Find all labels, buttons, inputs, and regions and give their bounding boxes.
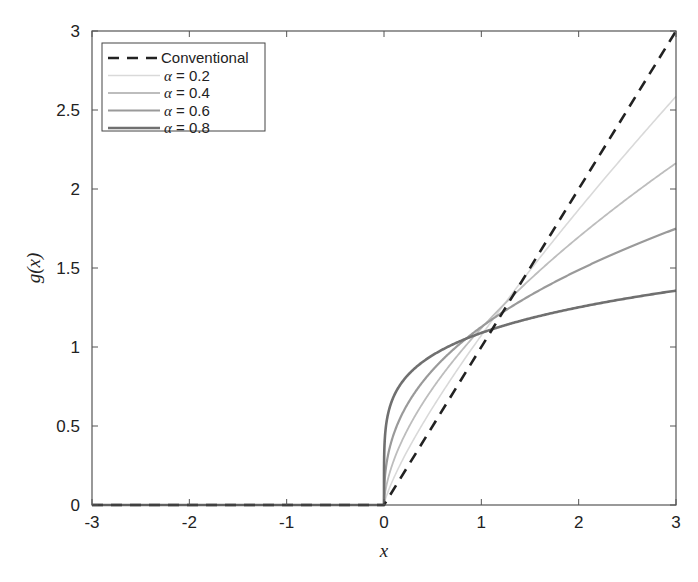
y-axis-label: g(x) xyxy=(23,253,45,284)
x-tick-label: -3 xyxy=(84,513,99,532)
y-tick-label: 3 xyxy=(71,22,80,41)
y-tick-label: 0.5 xyxy=(56,417,80,436)
y-tick-label: 1 xyxy=(71,338,80,357)
legend-label: α = 0.4 xyxy=(164,84,210,101)
x-tick-label: 2 xyxy=(574,513,583,532)
x-tick-label: 0 xyxy=(379,513,388,532)
y-tick-label: 0 xyxy=(71,496,80,515)
x-tick-label: 3 xyxy=(671,513,680,532)
legend: Conventionalα = 0.2α = 0.4α = 0.6α = 0.8 xyxy=(102,43,265,136)
y-tick-label: 2.5 xyxy=(56,101,80,120)
y-tick-labels: 00.511.522.53 xyxy=(56,22,80,515)
x-tick-label: -2 xyxy=(182,513,197,532)
legend-label: Conventional xyxy=(161,49,249,66)
x-tick-label: -1 xyxy=(279,513,294,532)
chart: -3-2-10123 00.511.522.53 x g(x) Conventi… xyxy=(0,0,698,582)
series-line xyxy=(92,291,676,505)
x-tick-labels: -3-2-10123 xyxy=(84,513,680,532)
legend-label: α = 0.8 xyxy=(164,119,210,136)
x-axis-label: x xyxy=(379,540,389,561)
y-tick-label: 2 xyxy=(71,180,80,199)
legend-label: α = 0.2 xyxy=(164,67,210,84)
y-tick-label: 1.5 xyxy=(56,259,80,278)
x-tick-label: 1 xyxy=(477,513,486,532)
legend-label: α = 0.6 xyxy=(164,102,210,119)
